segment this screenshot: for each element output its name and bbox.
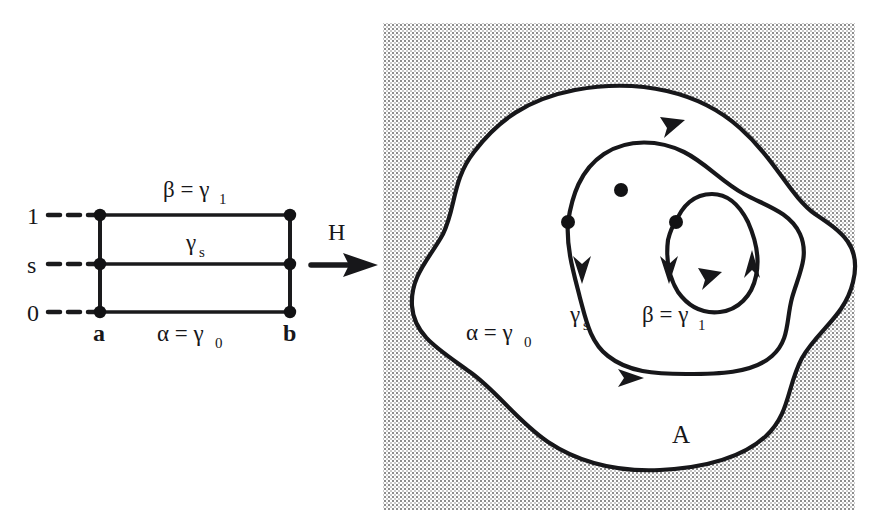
label-gamma-s-right-sub: s <box>583 317 589 333</box>
label-gamma-s-right-main: γ <box>569 302 580 327</box>
region-label-A: A <box>672 421 690 448</box>
figure-canvas: 1 s 0 a b β = γ 1 γ s α = γ 0 H <box>0 0 887 523</box>
vertex-dot-a0 <box>94 306 106 318</box>
axis-tick-label-1: 1 <box>27 203 39 229</box>
vertex-dot-b1 <box>284 209 296 221</box>
label-alpha-gamma0-left-main: α = γ <box>157 321 204 346</box>
vertex-dot-b0 <box>284 306 296 318</box>
label-alpha-gamma0-left: α = γ 0 <box>157 321 223 351</box>
label-beta-gamma1-right-sub: 1 <box>698 317 706 333</box>
corner-label-a: a <box>93 320 105 346</box>
corner-label-b: b <box>283 320 296 346</box>
label-beta-gamma1-right-main: β = γ <box>642 302 688 327</box>
label-alpha-gamma0-right-main: α = γ <box>466 320 513 345</box>
label-gamma-s-left-sub: s <box>199 244 205 260</box>
map-arrow-label: H <box>328 219 345 245</box>
axis-tick-label-0: 0 <box>27 300 39 326</box>
axis-tick-label-s: s <box>27 252 36 278</box>
label-gamma-s-left: γ s <box>185 230 205 260</box>
label-alpha-gamma0-right-sub: 0 <box>524 334 532 350</box>
right-image-group: α = γ 0 γ s β = γ 1 A <box>383 23 855 510</box>
basepoint-dot-beta <box>669 215 683 229</box>
map-arrow-group: H <box>311 219 378 277</box>
label-alpha-gamma0-left-sub: 0 <box>215 335 223 351</box>
vertex-dot-as <box>94 258 106 270</box>
homotopy-figure: 1 s 0 a b β = γ 1 γ s α = γ 0 H <box>0 0 887 523</box>
basepoint-dot-gamma-s <box>614 183 628 197</box>
label-beta-gamma1-left-sub: 1 <box>219 191 227 207</box>
left-domain-group: 1 s 0 a b β = γ 1 γ s α = γ 0 <box>27 177 296 351</box>
label-gamma-s-left-main: γ <box>185 230 196 255</box>
label-beta-gamma1-left: β = γ 1 <box>163 177 227 207</box>
vertex-dot-bs <box>284 258 296 270</box>
basepoint-dot-alpha <box>561 215 575 229</box>
vertex-dot-a1 <box>94 209 106 221</box>
label-beta-gamma1-left-main: β = γ <box>163 177 209 202</box>
